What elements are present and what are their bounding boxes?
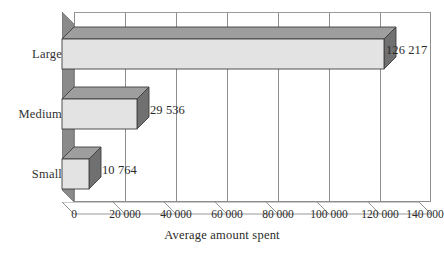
category-label-small: Small bbox=[0, 168, 62, 181]
bar-chart: Large Medium Small bbox=[0, 0, 444, 255]
xtick-label-0: 0 bbox=[71, 209, 77, 221]
xtick-label-120000: 120 000 bbox=[361, 209, 398, 221]
value-label-medium: 29 536 bbox=[150, 104, 185, 117]
xtick-label-100000: 100 000 bbox=[310, 209, 347, 221]
xtick-label-80000: 80 000 bbox=[262, 209, 294, 221]
x-axis-title: Average amount spent bbox=[0, 229, 444, 242]
bar-medium[interactable] bbox=[62, 87, 157, 117]
value-label-large: 126 217 bbox=[386, 44, 427, 57]
xtick-label-20000: 20 000 bbox=[109, 209, 141, 221]
xtick-label-140000: 140 000 bbox=[406, 209, 443, 221]
category-label-large: Large bbox=[0, 48, 62, 61]
value-label-small: 10 764 bbox=[102, 164, 137, 177]
xtick-label-60000: 60 000 bbox=[211, 209, 243, 221]
xtick-label-40000: 40 000 bbox=[160, 209, 192, 221]
bar-large[interactable] bbox=[62, 27, 402, 57]
category-label-medium: Medium bbox=[0, 108, 62, 121]
